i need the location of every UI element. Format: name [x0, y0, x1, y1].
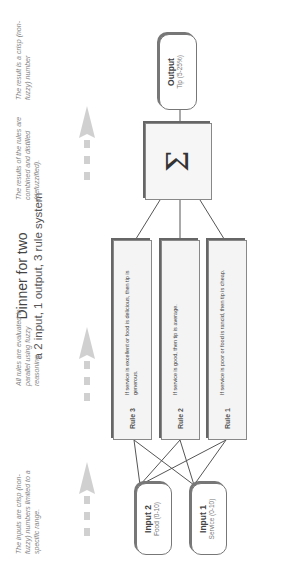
output-label: Output — [166, 35, 176, 109]
rule-box-3: Rule 3 If service is excellent or food i… — [113, 240, 152, 440]
note-inputs: The inputs are crisp (non-fuzzy) numbers… — [14, 468, 41, 554]
input-range: Service (0-10) — [208, 484, 215, 554]
note-rules: All rules are evaluated in parallel usin… — [14, 294, 41, 386]
note-combine: The results of the rules are combined an… — [14, 110, 41, 200]
sigma-icon: Σ — [160, 151, 195, 172]
rule-label: Rule 3 — [114, 408, 151, 429]
input-label: Input 1 — [198, 484, 208, 554]
input-range: Food (0-10) — [153, 484, 160, 554]
rule-text: If service is excellent or food is delic… — [123, 245, 139, 395]
rule-text: If service is poor or food is rancid, th… — [218, 245, 226, 395]
input-label: Input 2 — [143, 484, 153, 554]
rule-label: Rule 1 — [209, 408, 246, 429]
aggregator-box: Σ — [145, 123, 212, 200]
diagram-stage: Dinner for two a 2 input, 1 output, 3 ru… — [0, 0, 293, 566]
output-node: Output Tip (5-25%) — [159, 34, 197, 110]
rule-text: If service is good, then tip is average. — [171, 245, 179, 395]
note-result: The result is a crisp (non-fuzzy) number — [14, 4, 32, 100]
output-range: Tip (5-25%) — [176, 35, 183, 109]
rule-box-1: Rule 1 If service is poor or food is ran… — [208, 240, 247, 440]
rotated-canvas: Dinner for two a 2 input, 1 output, 3 ru… — [0, 0, 293, 566]
input-node-food: Input 2 Food (0-10) — [136, 483, 172, 555]
input-node-service: Input 1 Service (0-10) — [191, 483, 227, 555]
rule-box-2: Rule 2 If service is good, then tip is a… — [161, 240, 200, 440]
rule-label: Rule 2 — [162, 408, 199, 429]
